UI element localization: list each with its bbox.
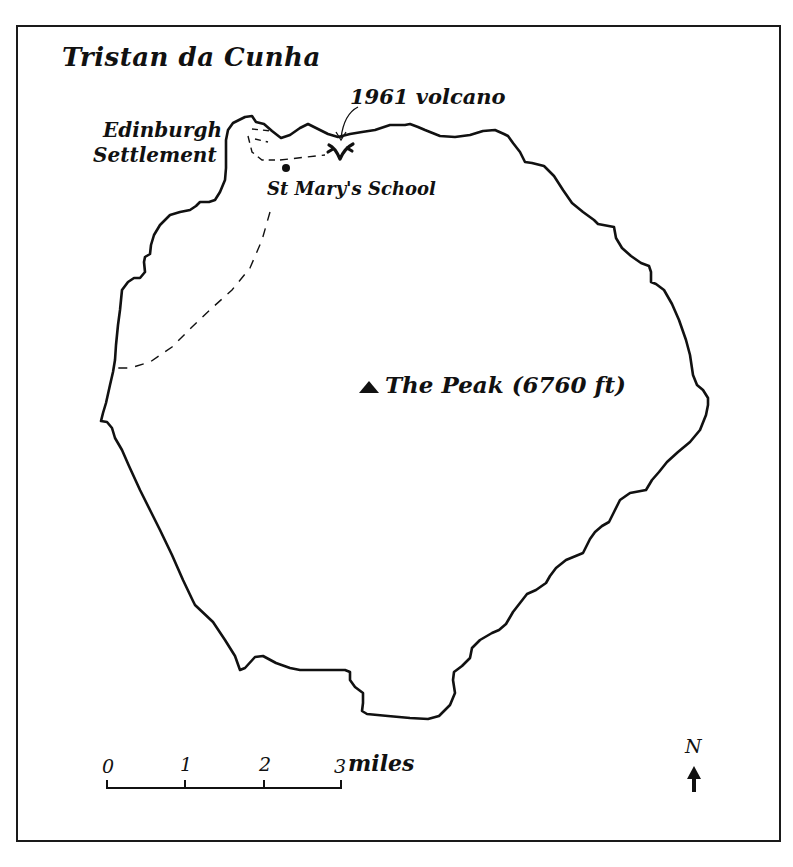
settlement-paths: [252, 129, 272, 142]
school-label: St Mary's School: [267, 180, 436, 198]
scale-bar: [107, 780, 341, 788]
scale-tick-2: 2: [259, 755, 271, 774]
track-southwest: [118, 212, 270, 368]
scale-tick-1: 1: [180, 755, 192, 774]
north-label: N: [685, 737, 702, 756]
north-arrow-icon: [687, 766, 701, 792]
road-to-volcano: [280, 155, 325, 160]
map-title: Tristan da Cunha: [62, 44, 321, 70]
peak-label: The Peak (6760 ft): [385, 373, 626, 396]
scale-tick-3: 3: [334, 757, 346, 776]
settlement-label-line1: Edinburgh: [103, 120, 222, 140]
scale-tick-0: 0: [102, 757, 114, 776]
volcano-label: 1961 volcano: [350, 86, 506, 107]
peak-triangle-icon: [359, 381, 379, 393]
island-coastline: [101, 116, 708, 719]
settlement-boundary: [248, 136, 275, 160]
volcano-icon: [328, 144, 353, 159]
settlement-label-line2: Settlement: [93, 145, 217, 165]
scale-unit-label: miles: [348, 752, 414, 774]
school-marker-icon: [282, 164, 290, 172]
